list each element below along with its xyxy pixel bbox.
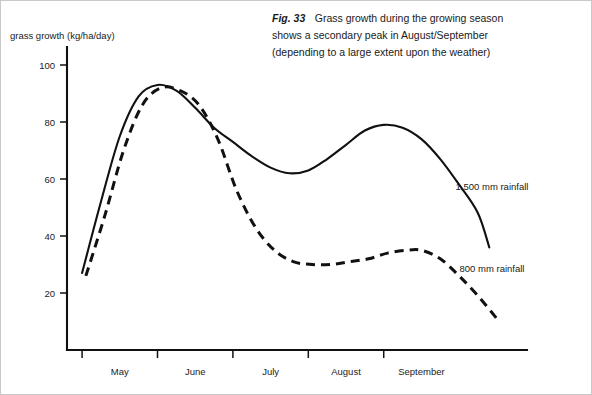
curve-800mm [86, 87, 497, 319]
y-axis-title: grass growth (kg/ha/day) [10, 30, 115, 41]
x-month-label-august: August [331, 366, 361, 377]
curve-1500mm [82, 85, 489, 273]
caption-line-1: Grass growth during the growing season [315, 12, 504, 24]
x-axis-month-labels: MayJuneJulyAugustSeptember [111, 366, 445, 377]
series-label-800mm: 800 mm rainfall [460, 263, 525, 274]
x-month-label-may: May [111, 366, 129, 377]
y-tick-label: 100 [39, 60, 55, 71]
x-month-label-july: July [262, 366, 279, 377]
y-tick-label: 20 [44, 288, 55, 299]
x-month-label-september: September [398, 366, 444, 377]
page-border [1, 1, 592, 395]
x-month-label-june: June [185, 366, 206, 377]
grass-growth-line-chart: grass growth (kg/ha/day) Fig. 33 Grass g… [0, 0, 592, 395]
y-tick-label: 60 [44, 174, 55, 185]
series-curves [82, 85, 497, 319]
caption-line-3: (depending to a large extent upon the we… [272, 46, 490, 58]
series-label-1500mm: 1,500 mm rainfall [456, 181, 529, 192]
figure-root: grass growth (kg/ha/day) Fig. 33 Grass g… [0, 0, 592, 395]
y-tick-label: 80 [44, 117, 55, 128]
y-axis-ticks: 20406080100 [39, 60, 67, 299]
caption-line-2: shows a secondary peak in August/Septemb… [272, 29, 488, 41]
y-tick-label: 40 [44, 231, 55, 242]
svg-text:Fig. 33 Grass growth d: Fig. 33 Grass growth during the growing … [272, 8, 503, 25]
x-axis-ticks [82, 350, 384, 358]
caption-figure-number: Fig. 33 [272, 12, 305, 24]
figure-caption: Fig. 33 Grass growth during the growing … [272, 8, 503, 58]
